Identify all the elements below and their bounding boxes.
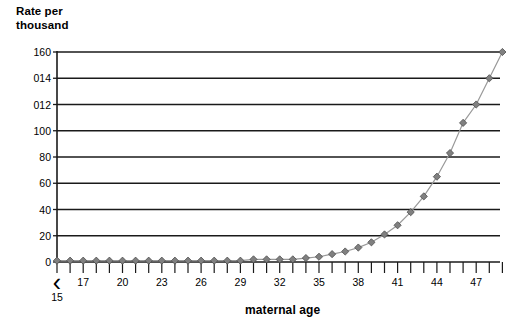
x-axis-tick-label: 26 — [188, 277, 214, 288]
x-axis-title: maternal age — [245, 303, 320, 317]
x-axis-tick-label-value: 15 — [40, 292, 74, 303]
x-axis-tick-label: 44 — [424, 277, 450, 288]
x-axis-tick-label: 20 — [110, 277, 136, 288]
less-than-icon: ‹ — [40, 272, 74, 293]
x-axis-tick-label: 29 — [227, 277, 253, 288]
x-axis-tick-label: 32 — [267, 277, 293, 288]
x-axis-tick-labels: ‹151720232629323538414447 — [0, 0, 520, 323]
x-axis-tick-label: 38 — [345, 277, 371, 288]
x-axis-tick-label: 35 — [306, 277, 332, 288]
chart-figure: Rate perthousand 160014012100806040200 ‹… — [0, 0, 520, 323]
x-axis-tick-label-under-15: ‹15 — [40, 272, 74, 303]
x-axis-tick-label: 23 — [149, 277, 175, 288]
x-axis-tick-label: 47 — [463, 277, 489, 288]
x-axis-tick-label: 17 — [70, 277, 96, 288]
x-axis-tick-label: 41 — [385, 277, 411, 288]
